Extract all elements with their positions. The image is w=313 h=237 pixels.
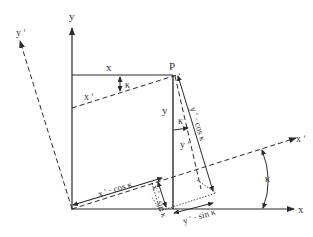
y-cos-label: y ʹ · cos κ	[188, 106, 208, 143]
kappa-top-label: κ	[125, 79, 130, 90]
x-prime-axis-label: x ʹ	[296, 133, 306, 144]
kappa-mid-arrow	[174, 128, 188, 130]
x-axis-label: x	[298, 203, 304, 215]
x-prime-segment-label: x ʹ	[84, 91, 94, 102]
x-cos-label: x ʹ · cos κ	[97, 179, 134, 199]
y-axis-label: y	[69, 10, 75, 22]
y-prime-axis-label: y ʹ	[16, 27, 26, 38]
x-segment-label: x	[106, 61, 112, 73]
kappa-right-label: κ	[265, 173, 270, 184]
rotation-diagram: y x x ʹ y ʹ P x y x ʹ κ y ʹ κ y ʹ · cos …	[0, 0, 313, 237]
y-prime-segment-label: y ʹ	[180, 139, 190, 150]
y-segment-label: y	[162, 104, 168, 116]
x-sin-label: x ʹ · sin κ	[150, 184, 169, 219]
point-p-label: P	[169, 60, 175, 72]
y-prime-axis	[20, 41, 72, 209]
kappa-mid-label: κ	[178, 115, 183, 126]
